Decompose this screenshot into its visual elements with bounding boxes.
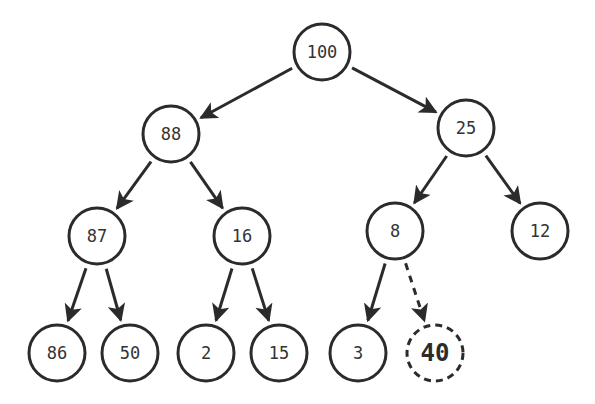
node-label: 2 (201, 343, 211, 363)
node-label: 88 (161, 124, 181, 144)
node-label: 8 (390, 221, 400, 241)
heap-node-16: 16 (214, 208, 270, 264)
node-label: 12 (530, 221, 550, 241)
edge-88-to-87-arrow (117, 162, 151, 209)
heap-node-100: 100 (294, 24, 350, 80)
node-label: 87 (87, 226, 107, 246)
heap-node-25: 25 (438, 100, 494, 156)
edge-25-to-8-arrow (414, 156, 446, 203)
edge-100-to-25-arrow (352, 68, 436, 112)
node-label: 86 (47, 343, 67, 363)
edge-8-to-3-arrow (368, 264, 385, 321)
heap-node-3: 3 (330, 325, 386, 381)
node-label: 40 (421, 339, 450, 367)
heap-node-12: 12 (512, 203, 568, 259)
nodes-layer: 100882587168128650215340 (29, 24, 568, 381)
heap-node-88: 88 (143, 106, 199, 162)
heap-node-87: 87 (69, 208, 125, 264)
node-label: 15 (269, 343, 289, 363)
edge-88-to-16-arrow (190, 162, 222, 208)
heap-node-15: 15 (251, 325, 307, 381)
edge-100-to-88-arrow (201, 68, 292, 118)
heap-node-2: 2 (178, 325, 234, 381)
edge-16-to-15-arrow (252, 268, 268, 320)
node-label: 100 (307, 42, 338, 62)
edge-16-to-2-arrow (216, 268, 232, 320)
heap-diagram: 100882587168128650215340 (0, 0, 595, 404)
edge-87-to-50-arrow (106, 269, 121, 321)
heap-node-86: 86 (29, 325, 85, 381)
node-label: 16 (232, 226, 252, 246)
node-label: 25 (456, 118, 476, 138)
heap-node-50: 50 (102, 325, 158, 381)
heap-node-40: 40 (407, 325, 463, 381)
edge-8-to-40-arrow (406, 263, 425, 320)
node-label: 50 (120, 343, 140, 363)
edge-25-to-12-arrow (486, 156, 520, 204)
node-label: 3 (353, 343, 363, 363)
heap-node-8: 8 (367, 203, 423, 259)
edge-87-to-86-arrow (68, 268, 86, 321)
